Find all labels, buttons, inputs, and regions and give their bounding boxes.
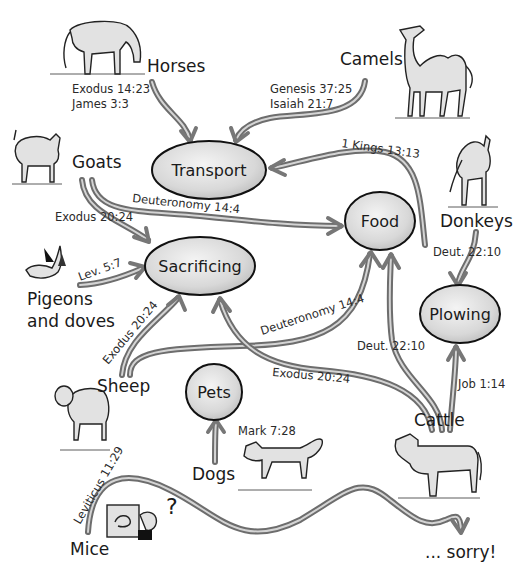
hub-sacrificing-label: Sacrificing <box>158 257 241 276</box>
label-dogs: Dogs <box>192 464 235 484</box>
horse-icon <box>50 21 145 74</box>
donkey-icon <box>448 136 498 207</box>
ref-horses-transport-1: Exodus 14:23 <box>72 82 150 96</box>
hub-transport-label: Transport <box>170 161 246 180</box>
hub-plowing-label: Plowing <box>429 305 491 324</box>
goat-icon <box>12 130 62 184</box>
question-mark: ? <box>166 494 178 519</box>
hub-plowing: Plowing <box>420 285 500 343</box>
hub-sacrificing: Sacrificing <box>145 237 255 295</box>
arrow-dogs-pets <box>208 420 224 462</box>
dog-icon <box>238 439 322 490</box>
ref-cattle-food: Deut. 22:10 <box>357 339 425 353</box>
label-cattle: Cattle <box>414 410 465 430</box>
ref-donkeys-plowing: Deut. 22:10 <box>433 245 501 259</box>
label-sheep: Sheep <box>97 376 150 396</box>
label-pigeons-line2: and doves <box>27 311 115 331</box>
concept-diagram: Transport Food Sacrificing Plowing Pets <box>0 0 517 580</box>
label-donkeys: Donkeys <box>440 211 513 231</box>
hub-pets-label: Pets <box>197 383 231 402</box>
hub-transport: Transport <box>152 141 266 199</box>
pigeon-icon <box>26 246 66 278</box>
ref-donkeys-transport: 1 Kings 13:13 <box>341 136 421 161</box>
ref-horses-transport-2: James 3:3 <box>71 97 129 111</box>
ref-cattle-sacrificing: Exodus 20:24 <box>272 365 351 386</box>
label-mice: Mice <box>70 539 109 559</box>
ref-dogs-pets: Mark 7:28 <box>238 424 296 438</box>
hub-pets: Pets <box>186 364 242 420</box>
ref-cattle-plowing: Job 1:14 <box>457 377 505 391</box>
cattle-icon <box>395 434 481 498</box>
camel-icon <box>395 26 472 118</box>
label-horses: Horses <box>147 56 205 76</box>
label-pigeons-line1: Pigeons <box>27 289 93 309</box>
hub-food: Food <box>345 192 415 250</box>
label-goats: Goats <box>72 152 122 172</box>
mouse-easel-icon <box>107 505 156 540</box>
arrow-donkeys-plowing <box>450 232 476 286</box>
hub-food-label: Food <box>361 212 399 231</box>
ref-camels-transport-1: Genesis 37:25 <box>270 82 352 96</box>
ref-goats-sacrificing: Exodus 20:24 <box>55 210 133 224</box>
arrow-horses-transport <box>152 82 196 142</box>
ref-camels-transport-2: Isaiah 21:7 <box>270 97 333 111</box>
label-camels: Camels <box>340 49 403 69</box>
label-sorry: ... sorry! <box>425 542 496 562</box>
